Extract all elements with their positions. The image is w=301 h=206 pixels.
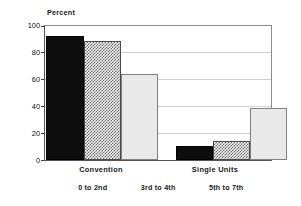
y-tick-mark-100: [41, 26, 45, 27]
plot-area: [44, 25, 272, 161]
legend-label-3rd-to-4th: 3rd to 4th: [141, 183, 176, 192]
y-tick-label-40: 40: [18, 103, 40, 110]
y-tick-mark-80: [41, 52, 45, 53]
x-axis-label-single-units: Single Units: [158, 165, 272, 174]
legend-item-0-to-2nd: 0 to 2nd: [58, 183, 108, 192]
bar-single-units-5th-to-7th: [250, 108, 287, 160]
bar-single-units-0-to-2nd: [176, 146, 213, 160]
y-tick-mark-20: [41, 133, 45, 134]
y-tick-label-60: 60: [18, 76, 40, 83]
y-tick-label-100: 100: [18, 22, 40, 29]
bar-convention-5th-to-7th: [121, 74, 158, 160]
legend-item-3rd-to-4th: 3rd to 4th: [120, 183, 175, 192]
legend-label-0-to-2nd: 0 to 2nd: [78, 183, 107, 192]
y-axis-title: Percent: [47, 8, 75, 17]
legend-swatch-checkered-gray-icon: [120, 184, 137, 192]
bar-convention-0-to-2nd: [46, 36, 84, 160]
y-tick-label-0: 0: [18, 157, 40, 164]
legend-item-5th-to-7th: 5th to 7th: [189, 183, 244, 192]
y-tick-label-80: 80: [18, 49, 40, 56]
y-tick-label-20: 20: [18, 130, 40, 137]
y-tick-mark-40: [41, 106, 45, 107]
legend-swatch-solid-black-icon: [58, 184, 75, 192]
x-axis-label-convention: Convention: [44, 165, 158, 174]
legend-swatch-light-gray-icon: [189, 184, 206, 192]
chart-legend: 0 to 2nd 3rd to 4th 5th to 7th: [0, 183, 301, 192]
bar-convention-3rd-to-4th: [84, 41, 121, 159]
bar-single-units-3rd-to-4th: [213, 141, 250, 160]
y-tick-mark-60: [41, 79, 45, 80]
bar-chart: Percent 100 80 60 40 20 0 Convention Sin…: [0, 0, 301, 206]
y-tick-mark-0: [41, 160, 45, 161]
legend-label-5th-to-7th: 5th to 7th: [209, 183, 243, 192]
